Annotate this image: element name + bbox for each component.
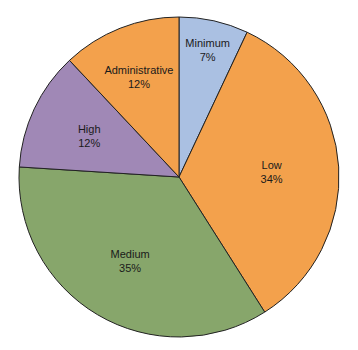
- slice-percent: 34%: [261, 173, 283, 185]
- slice-label: Low: [262, 159, 282, 171]
- pie-chart: Minimum7%Low34%Medium35%High12%Administr…: [0, 0, 358, 350]
- slice-label: Medium: [111, 248, 150, 260]
- slice-label: High: [78, 123, 101, 135]
- slice-label: Administrative: [104, 64, 173, 76]
- slice-percent: 35%: [119, 262, 141, 274]
- slice-label: Minimum: [185, 37, 230, 49]
- slice-percent: 12%: [78, 137, 100, 149]
- slice-percent: 7%: [200, 51, 216, 63]
- slice-percent: 12%: [128, 78, 150, 90]
